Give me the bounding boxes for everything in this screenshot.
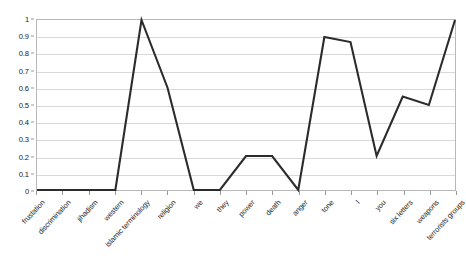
y-tick-label: 0.3	[19, 135, 29, 144]
chart-container: 10.90.80.70.60.50.40.30.20.10 frustation…	[0, 0, 466, 276]
y-tick-mark	[31, 139, 34, 140]
x-tick-mark	[194, 191, 195, 195]
x-tick-label: western	[102, 198, 126, 223]
x-tick-label: I	[354, 198, 362, 206]
y-tick-mark	[31, 53, 34, 54]
y-tick-mark	[31, 70, 34, 71]
y-tick-label: 0.5	[19, 101, 29, 110]
x-tick-mark	[299, 191, 300, 195]
x-tick-label: weapons	[414, 198, 440, 225]
y-tick-mark	[31, 36, 34, 37]
y-tick-label: 0.7	[19, 66, 29, 75]
y-tick-label: 0.1	[19, 169, 29, 178]
y-tick-mark	[31, 156, 34, 157]
x-tick-mark	[377, 191, 378, 195]
x-tick-label: jihadism	[75, 198, 100, 223]
y-tick-label: 0	[25, 187, 29, 196]
x-tick-mark	[246, 191, 247, 195]
y-tick-mark	[31, 105, 34, 106]
x-tick-label: death	[264, 198, 283, 217]
x-tick-mark	[62, 191, 63, 195]
x-tick-label: we	[191, 198, 204, 211]
x-tick-label: anger	[290, 198, 309, 218]
x-tick-mark	[404, 191, 405, 195]
x-tick-mark	[351, 191, 352, 195]
x-tick-mark	[456, 191, 457, 195]
line-series	[37, 20, 455, 190]
y-tick-label: 0.6	[19, 83, 29, 92]
y-tick-label: 1	[25, 15, 29, 24]
y-axis: 10.90.80.70.60.50.40.30.20.10	[0, 0, 34, 200]
y-tick-label: 0.9	[19, 32, 29, 41]
y-tick-label: 0.8	[19, 49, 29, 58]
x-tick-label: you	[373, 198, 388, 213]
y-tick-mark	[31, 191, 34, 192]
y-tick-mark	[31, 173, 34, 174]
x-tick-mark	[325, 191, 326, 195]
y-tick-mark	[31, 122, 34, 123]
x-tick-label: they	[214, 198, 230, 214]
x-tick-mark	[36, 191, 37, 195]
x-tick-mark	[220, 191, 221, 195]
series-polyline	[37, 20, 455, 190]
y-tick-label: 0.2	[19, 152, 29, 161]
y-tick-mark	[31, 19, 34, 20]
x-tick-mark	[272, 191, 273, 195]
x-tick-mark	[89, 191, 90, 195]
x-tick-mark	[115, 191, 116, 195]
y-tick-mark	[31, 87, 34, 88]
x-tick-label: six letters	[387, 198, 414, 226]
x-tick-label: religion	[156, 198, 178, 221]
plot-area	[36, 19, 456, 191]
x-tick-mark	[141, 191, 142, 195]
x-tick-label: tone	[319, 198, 335, 214]
x-axis-tick-marks	[36, 191, 456, 196]
x-tick-label: power	[237, 198, 257, 219]
x-tick-mark	[167, 191, 168, 195]
x-tick-mark	[430, 191, 431, 195]
y-tick-label: 0.4	[19, 118, 29, 127]
